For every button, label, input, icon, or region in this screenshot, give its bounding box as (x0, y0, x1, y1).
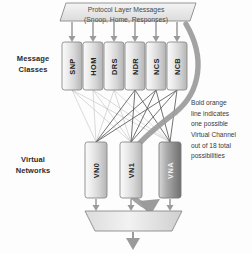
class-to-vn-links (72, 90, 177, 142)
message-class-label-hom: HOM (89, 51, 98, 83)
annotation-line-2: line indicates (191, 109, 251, 120)
annotation-line-6: possibilities (191, 151, 251, 162)
annotation-line-1: Bold orange (191, 98, 251, 109)
message-classes-label-line-1: Message (6, 54, 60, 65)
banner-line-2: (Snoop, Home, Responses) (60, 15, 192, 25)
diagram-canvas: Protocol Layer Messages (Snoop, Home, Re… (0, 0, 252, 253)
vn-arrowheads (93, 205, 174, 211)
message-class-label-ncs: NCS (152, 51, 161, 83)
banner-line-1: Protocol Layer Messages (60, 5, 192, 15)
output-arrow (126, 232, 140, 250)
virtual-networks-label: Virtual Networks (6, 155, 60, 177)
link-layer-trapezoid (85, 211, 182, 231)
banner-arrowheads (69, 36, 181, 42)
virtual-channel-annotation: Bold orange line indicates one possible … (191, 98, 251, 162)
annotation-line-5: out of 18 total (191, 141, 251, 152)
message-classes-label: Message Classes (6, 54, 60, 76)
message-class-label-snp: SNP (68, 51, 77, 83)
virtual-network-label-vn1: VN1 (127, 155, 136, 187)
message-class-boxes (62, 42, 187, 90)
message-class-label-drs: DRS (110, 51, 119, 83)
virtual-networks-label-line-1: Virtual (6, 155, 60, 166)
message-classes-label-line-2: Classes (6, 65, 60, 76)
annotation-line-4: Virtual Channel (191, 130, 251, 141)
message-class-label-ncb: NCB (173, 51, 182, 83)
virtual-network-label-vna: VNA (166, 155, 175, 187)
banner-text: Protocol Layer Messages (Snoop, Home, Re… (60, 5, 192, 25)
message-class-label-ndr: NDR (131, 51, 140, 83)
annotation-line-3: one possible (191, 119, 251, 130)
virtual-networks-label-line-2: Networks (6, 166, 60, 177)
virtual-network-label-vn0: VN0 (92, 155, 101, 187)
